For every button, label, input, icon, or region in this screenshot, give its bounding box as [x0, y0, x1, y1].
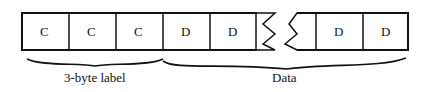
cell-d2: D: [228, 24, 237, 40]
cell-c3: C: [134, 24, 143, 40]
cell-d3: D: [334, 24, 343, 40]
cell-d4: D: [381, 24, 390, 40]
label-brace-caption: 3-byte label: [64, 70, 126, 86]
data-brace-caption: Data: [272, 70, 297, 86]
cell-d1: D: [181, 24, 190, 40]
cell-c2: C: [87, 24, 96, 40]
cell-c1: C: [40, 24, 49, 40]
